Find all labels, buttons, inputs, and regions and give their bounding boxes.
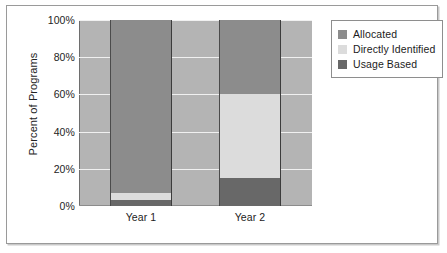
legend-item[interactable]: Directly Identified <box>338 42 435 56</box>
legend-swatch-icon <box>338 30 347 39</box>
legend-item-label: Usage Based <box>353 58 417 70</box>
bar-segment-allocated[interactable] <box>220 20 280 94</box>
y-axis-tick-label: 80% <box>54 51 75 63</box>
figure-frame: Percent of Programs 0%20%40%60%80%100% Y… <box>6 5 438 244</box>
y-axis-tick-label: 60% <box>54 88 75 100</box>
bar-segment-directly-identified[interactable] <box>220 94 280 178</box>
bar-stack <box>220 21 280 206</box>
legend-item-label: Directly Identified <box>353 43 435 55</box>
chart-figure: Percent of Programs 0%20%40%60%80%100% Y… <box>0 0 447 253</box>
x-axis-tick-label: Year 2 <box>235 211 266 223</box>
bar-year-1[interactable] <box>110 20 172 206</box>
bar-segment-usage-based[interactable] <box>220 178 280 206</box>
bar-year-2[interactable] <box>219 20 281 206</box>
y-axis-tick-label: 20% <box>54 163 75 175</box>
y-axis-tick-label: 40% <box>54 126 75 138</box>
y-axis-tick-label: 0% <box>60 200 75 212</box>
chart-legend: AllocatedDirectly IdentifiedUsage Based <box>331 20 443 78</box>
legend-swatch-icon <box>338 60 347 69</box>
bar-segment-allocated[interactable] <box>111 20 171 193</box>
y-axis-tick-label: 100% <box>48 14 75 26</box>
x-axis-tick-labels: Year 1Year 2 <box>79 211 312 227</box>
legend-item[interactable]: Usage Based <box>338 57 435 71</box>
legend-item[interactable]: Allocated <box>338 27 435 41</box>
legend-swatch-icon <box>338 45 347 54</box>
x-axis-tick-label: Year 1 <box>126 211 157 223</box>
bar-segment-directly-identified[interactable] <box>111 193 171 200</box>
legend-item-label: Allocated <box>353 28 397 40</box>
y-axis-tick-labels: 0%20%40%60%80%100% <box>33 20 75 206</box>
bar-stack <box>111 21 171 206</box>
y-axis-line <box>79 20 80 206</box>
plot-area <box>79 20 312 206</box>
bar-segment-usage-based[interactable] <box>111 200 171 206</box>
